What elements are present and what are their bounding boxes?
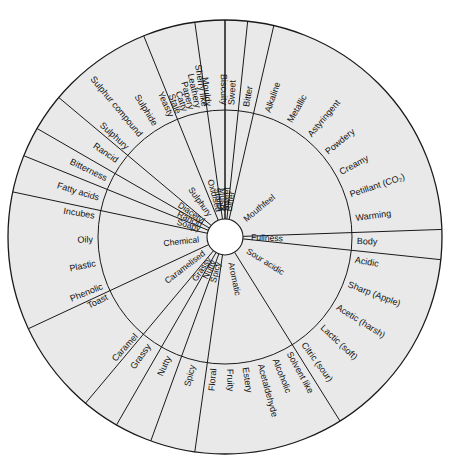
wheel-hub-circle bbox=[207, 219, 243, 255]
outer-label-oily: Oily bbox=[77, 234, 93, 244]
inner-label-fullness: Fullness bbox=[251, 232, 283, 243]
wheel-hub bbox=[207, 219, 243, 255]
outer-label-floral: Floral bbox=[206, 368, 218, 391]
outer-label-biscuity: Biscuity bbox=[219, 74, 229, 106]
inner-label-musty: Musty bbox=[217, 188, 229, 212]
flavour-wheel-diagram: SweetBitterMouthfeelFullnessSour acidicA… bbox=[0, 0, 458, 473]
flavour-wheel-svg: SweetBitterMouthfeelFullnessSour acidicA… bbox=[0, 0, 458, 473]
outer-label-body: Body bbox=[357, 236, 378, 247]
outer-label-fruity: Fruity bbox=[225, 369, 236, 392]
